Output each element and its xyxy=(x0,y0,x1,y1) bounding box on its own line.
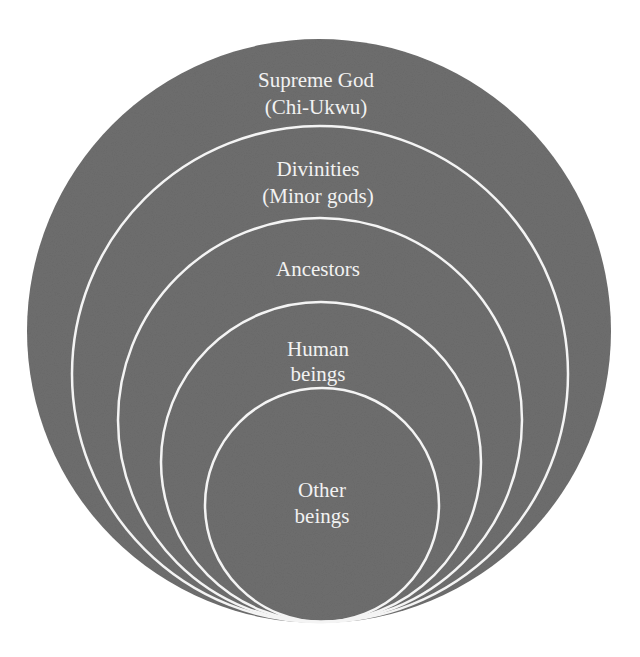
label-other-beings-line1: Other xyxy=(298,478,346,502)
label-human-beings-line2: beings xyxy=(291,362,346,386)
label-ancestors: Ancestors xyxy=(276,257,360,281)
nested-circles-diagram: Supreme God (Chi-Ukwu) Divinities (Minor… xyxy=(0,0,640,657)
label-supreme-god-line1: Supreme God xyxy=(258,68,375,92)
label-divinities-line2: (Minor gods) xyxy=(262,184,373,208)
label-human-beings-line1: Human xyxy=(287,337,349,361)
label-supreme-god-line2: (Chi-Ukwu) xyxy=(265,95,368,119)
label-other-beings-line2: beings xyxy=(295,504,350,528)
label-divinities-line1: Divinities xyxy=(277,157,360,181)
